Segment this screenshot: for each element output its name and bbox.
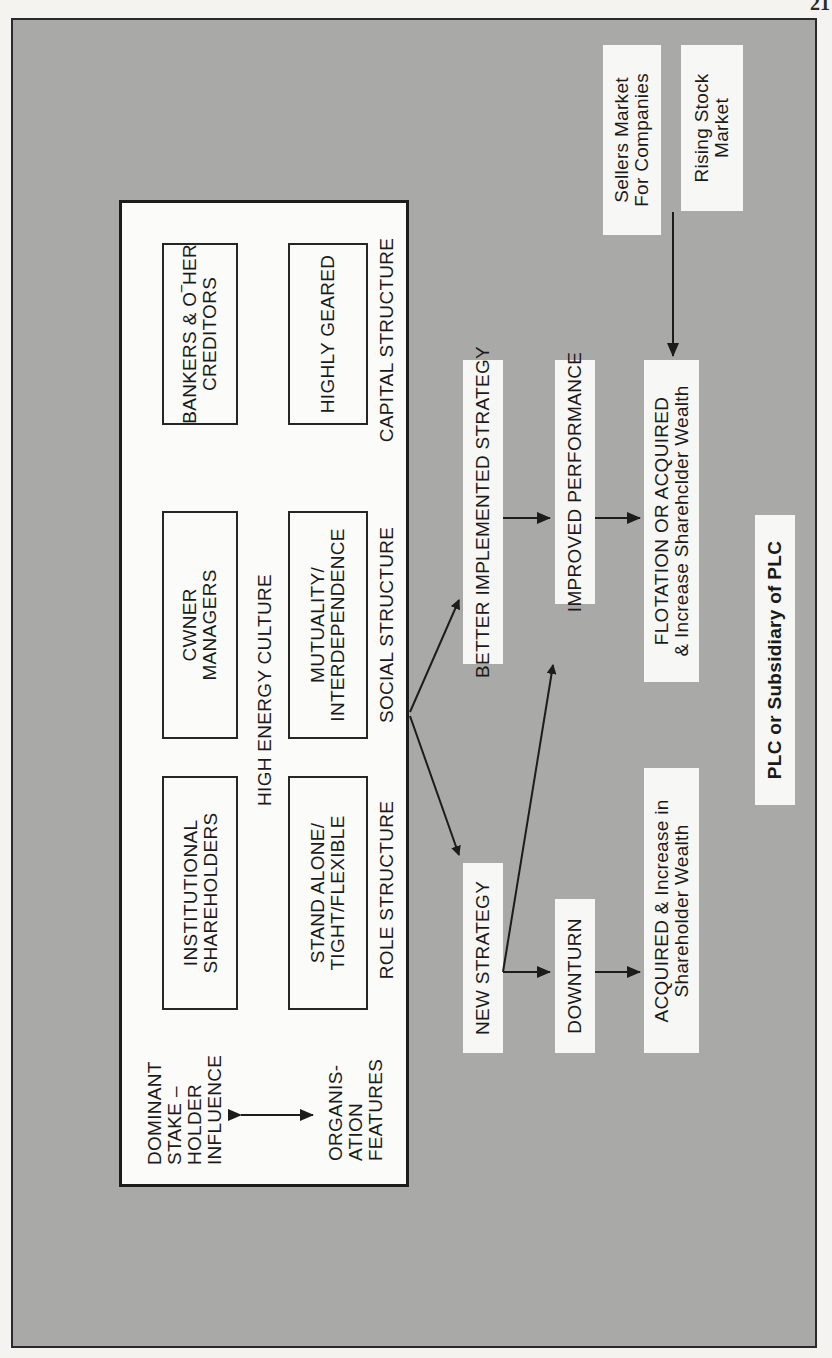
label-owner-managers: CWNER MANAGERS bbox=[180, 569, 220, 680]
label-improved-performance: IMPROVED PERFORMANCE bbox=[565, 352, 585, 612]
label-role-structure: ROLE STRUCTURE bbox=[377, 801, 397, 979]
label-sellers-market: Sellers Market For Companies bbox=[612, 73, 652, 207]
label-organisation-features: ORGANIS- ATION FEATURES bbox=[326, 1059, 386, 1161]
label-plc: PLC or Subsidiary of PLC bbox=[765, 541, 785, 779]
page-number: 21 bbox=[810, 0, 830, 15]
label-highly-geared: HIGHLY GEARED bbox=[318, 255, 338, 413]
label-better-strategy: BETTER IMPLEMENTED STRATEGY bbox=[473, 346, 493, 678]
label-institutional-shareholders: INSTITUTIONAL SHAREHOLDERS bbox=[180, 813, 220, 974]
label-flotation: FLOTATION OR ACQUIRED & Increase Sharehc… bbox=[652, 385, 692, 656]
label-social-structure: SOCIAL STRUCTURE bbox=[377, 527, 397, 723]
label-bankers-creditors: BANKERS & O‾HER CREDITORS bbox=[180, 244, 220, 424]
label-downturn: DOWNTURN bbox=[565, 918, 585, 1033]
label-rising-stock: Rising Stock Market bbox=[692, 73, 732, 182]
label-new-strategy: NEW STRATEGY bbox=[473, 881, 493, 1035]
label-dominant-stakeholder-influence: DOMINANT STAKE – HOLDER INFLUENCE bbox=[145, 1055, 225, 1165]
label-capital-structure: CAPITAL STRUCTURE bbox=[377, 238, 397, 443]
label-mutuality: MUTUALITY/ INTERDEPENDENCE bbox=[308, 528, 348, 721]
culture-title: HIGH ENERGY CULTURE bbox=[255, 574, 275, 806]
label-acquired: ACQUIRED & Increase in Shareholder Wealt… bbox=[652, 799, 692, 1022]
label-stand-alone: STAND ALONE/ TIGHT/FLEXIBLE bbox=[308, 815, 348, 970]
